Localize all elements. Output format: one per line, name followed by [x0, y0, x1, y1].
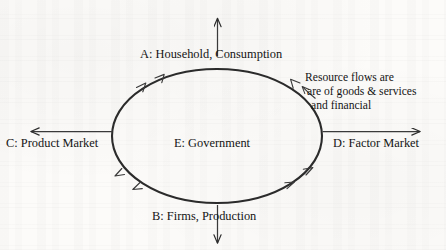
- resource-flows-annotation: Resource flows are are of goods & servic…: [305, 71, 416, 113]
- arrowhead-lower-left-inner: [133, 183, 143, 190]
- label-product-market: C: Product Market: [6, 136, 98, 151]
- annotation-line-1: Resource flows are: [305, 71, 416, 85]
- label-household-consumption: A: Household, Consumption: [140, 47, 282, 62]
- annotation-line-2: are of goods & services: [305, 85, 416, 99]
- label-government: E: Government: [174, 136, 250, 151]
- annotation-line-3: and financial: [305, 99, 416, 113]
- diagram-canvas: A: Household, Consumption B: Firms, Prod…: [0, 0, 446, 250]
- arrowhead-upper-right: [291, 79, 300, 88]
- label-firms-production: B: Firms, Production: [152, 209, 256, 224]
- arrowhead-lower-left-outer: [115, 169, 125, 177]
- ellipse-flow-arrowheads: [115, 74, 313, 189]
- label-factor-market: D: Factor Market: [333, 136, 419, 151]
